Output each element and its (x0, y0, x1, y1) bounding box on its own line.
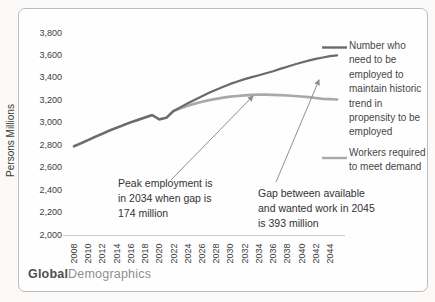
brand-demographics: Demographics (68, 267, 151, 281)
x-tick-label: 2040 (296, 236, 307, 272)
x-tick-label: 2038 (282, 236, 293, 272)
x-tick-label: 2042 (310, 236, 321, 272)
y-tick-label: 2,200 (22, 207, 62, 218)
x-tick-label: 2030 (225, 236, 236, 272)
y-tick-label: 2,400 (22, 185, 62, 196)
y-tick-label: 3,400 (22, 72, 62, 83)
y-axis-title: Persons Millions (5, 104, 16, 177)
x-tick-label: 2044 (325, 236, 336, 272)
brand-logo: GlobalDemographics (28, 267, 151, 281)
series-workers-required-line (74, 95, 337, 147)
brand-global: Global (28, 267, 68, 281)
x-tick-label: 2026 (197, 236, 208, 272)
x-tick-label: 2020 (154, 236, 165, 272)
employment-projection-chart: Persons Millions 3,8003,6003,4003,2003,0… (0, 0, 435, 302)
legend-item-workers-required: Workers required to meet demand (349, 146, 434, 175)
x-tick-label: 2024 (182, 236, 193, 272)
y-tick-label: 3,200 (22, 95, 62, 106)
y-tick-label: 3,600 (22, 50, 62, 61)
x-tick-label: 2028 (211, 236, 222, 272)
y-tick-label: 3,800 (22, 28, 62, 39)
y-axis-title-container: Persons Millions (2, 70, 18, 210)
x-tick-label: 2022 (168, 236, 179, 272)
annotation-peak-employment: Peak employment is in 2034 when gap is 1… (118, 176, 228, 221)
legend-item-need-employed: Number who need to be employed to mainta… (349, 39, 434, 140)
y-tick-label: 2,000 (22, 230, 62, 241)
y-tick-label: 2,600 (22, 162, 62, 173)
x-tick-label: 2032 (239, 236, 250, 272)
y-tick-label: 3,000 (22, 117, 62, 128)
annotation-gap-2045: Gap between available and wanted work in… (258, 186, 394, 231)
y-tick-label: 2,800 (22, 140, 62, 151)
x-tick-label: 2036 (268, 236, 279, 272)
x-tick-label: 2034 (253, 236, 264, 272)
